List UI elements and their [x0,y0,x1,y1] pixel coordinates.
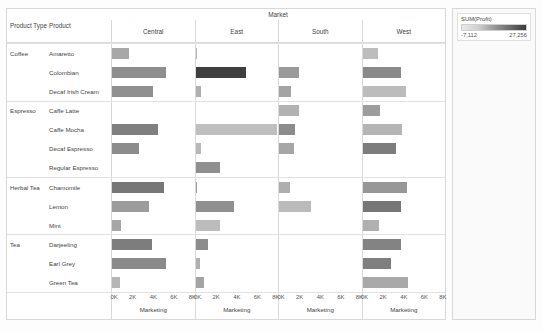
product-label[interactable]: Chamomile [47,178,111,197]
bar-mark[interactable] [112,86,153,97]
header-market-central[interactable]: Central [111,20,195,42]
bar-mark[interactable] [363,239,402,250]
bar-cell-south [278,158,362,177]
bar-mark[interactable] [279,86,291,97]
product-type-label[interactable] [7,120,47,139]
bar-cell-west [362,158,446,177]
bar-mark[interactable] [363,105,381,116]
bar-cell-east [195,178,279,197]
product-label[interactable]: Decaf Espresso [47,139,111,158]
bar-mark[interactable] [196,220,220,231]
product-type-label[interactable] [7,254,47,273]
product-type-label[interactable] [7,63,47,82]
header-market-west[interactable]: West [362,20,446,42]
bar-cell-west [362,216,446,235]
bar-mark[interactable] [196,277,204,288]
bar-mark[interactable] [363,220,380,231]
bar-mark[interactable] [196,67,247,78]
color-legend[interactable]: SUM(Profit) -7,112 27,256 [457,13,531,41]
bar-mark[interactable] [112,182,164,193]
bar-mark[interactable] [363,143,396,154]
bar-mark[interactable] [196,201,234,212]
bar-cell-east [195,216,279,235]
tick-group: 0K2K4K6K8K [279,293,362,303]
bar-mark[interactable] [112,67,166,78]
bar-mark[interactable] [196,143,202,154]
bar-mark[interactable] [279,67,299,78]
bar-mark[interactable] [112,220,121,231]
bar-mark[interactable] [363,201,402,212]
bar-cell-central [111,63,195,82]
bar-cell-south [278,63,362,82]
product-label[interactable]: Amaretto [47,44,111,63]
product-type-label[interactable] [7,273,47,292]
product-label[interactable]: Lemon [47,197,111,216]
chart-row: Green Tea [7,273,445,292]
product-label[interactable]: Regular Espresso [47,158,111,177]
bar-cell-west [362,82,446,101]
product-label[interactable]: Caffe Latte [47,102,111,121]
bar-cell-central [111,139,195,158]
bar-mark[interactable] [112,143,139,154]
bar-mark[interactable] [196,86,202,97]
bar-cell-central [111,235,195,254]
bar-mark[interactable] [112,239,152,250]
product-type-label[interactable]: Espresso [7,102,47,121]
product-type-label[interactable] [7,139,47,158]
bar-mark[interactable] [279,105,299,116]
bar-mark[interactable] [363,48,379,59]
product-label[interactable]: Earl Grey [47,254,111,273]
product-label[interactable]: Decaf Irish Cream [47,82,111,101]
product-type-label[interactable]: Tea [7,235,47,254]
bar-mark[interactable] [279,143,294,154]
axis-tick: 4K [150,294,157,300]
product-type-label[interactable]: Herbal Tea [7,178,47,197]
bar-mark[interactable] [363,124,403,135]
bar-mark[interactable] [196,48,198,59]
bar-mark[interactable] [196,162,220,173]
bar-mark[interactable] [112,201,149,212]
bar-mark[interactable] [196,258,200,269]
tick-group: 0K2K4K6K8K [196,293,279,303]
product-label[interactable]: Mint [47,216,111,235]
bar-mark[interactable] [363,258,392,269]
product-label[interactable]: Colombian [47,63,111,82]
product-type-label[interactable] [7,158,47,177]
chart-row: Herbal TeaChamomile [7,177,445,197]
bar-mark[interactable] [112,277,120,288]
chart-row: CoffeeAmaretto [7,43,445,63]
bar-mark[interactable] [279,201,311,212]
product-type-label[interactable] [7,197,47,216]
bar-mark[interactable] [112,258,166,269]
bar-mark[interactable] [363,86,407,97]
bar-mark[interactable] [112,124,158,135]
bar-cell-east [195,158,279,177]
crosstab-grid: Product Type Product Central East South … [7,20,445,319]
bar-cell-south [278,139,362,158]
bar-mark[interactable] [196,124,277,135]
product-label[interactable]: Green Tea [47,273,111,292]
bar-mark[interactable] [279,182,290,193]
legend-max-value: 27,256 [509,32,527,38]
tick-group: 0K2K4K6K8K [363,293,446,303]
product-type-label[interactable]: Coffee [7,44,47,63]
bar-cell-south [278,254,362,273]
header-market-south[interactable]: South [278,20,362,42]
product-type-label[interactable] [7,216,47,235]
bar-mark[interactable] [279,124,295,135]
header-market-east[interactable]: East [195,20,279,42]
chart-row: EspressoCaffe Latte [7,101,445,121]
bar-mark[interactable] [363,277,408,288]
legend-color-ramp [461,24,527,31]
bar-cell-east [195,102,279,121]
product-label[interactable]: Darjeeling [47,235,111,254]
bar-mark[interactable] [363,67,401,78]
bar-mark[interactable] [112,48,129,59]
bar-mark[interactable] [196,182,197,193]
product-type-label[interactable] [7,82,47,101]
product-label[interactable]: Caffe Mocha [47,120,111,139]
axis-tick: 2K [380,294,387,300]
legend-min-value: -7,112 [461,32,477,38]
bar-mark[interactable] [363,182,408,193]
bar-mark[interactable] [196,239,208,250]
